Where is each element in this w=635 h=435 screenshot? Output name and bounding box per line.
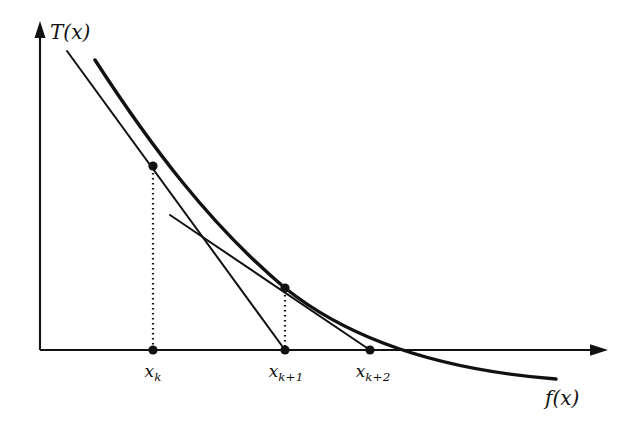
y-axis-label: T(x) [50, 22, 90, 42]
figure-canvas: T(x) f(x) xk xk+1 xk+2 [0, 0, 635, 435]
tick-label-x-k-base: x [145, 361, 155, 381]
function-curve [95, 60, 556, 379]
tick-label-x-k-1-base: x [269, 361, 279, 381]
tick-label-x-k-2-base: x [356, 361, 366, 381]
x-axis-label-paren-close: ) [572, 386, 580, 410]
x-axis-label-var: x [560, 386, 571, 410]
figure-graphics [0, 0, 635, 435]
tick-label-x-k-1-sub: k+1 [278, 370, 303, 384]
x-axis-arrow-icon [590, 344, 608, 356]
tick-label-x-k: xk [145, 363, 162, 383]
y-axis-label-base: T [50, 20, 63, 44]
y-axis-label-paren-open: ( [63, 20, 71, 44]
y-axis-arrow-icon [35, 21, 46, 38]
tangent-line-at-x-k [67, 51, 285, 350]
point-axis-x-k-1 [280, 345, 289, 354]
tick-label-x-k-sub: k [154, 370, 161, 384]
tick-label-x-k-2-sub: k+2 [365, 370, 390, 384]
y-axis-label-var: x [71, 20, 82, 44]
point-axis-x-k [148, 345, 157, 354]
y-axis-label-paren-close: ) [82, 20, 90, 44]
point-curve-x-k [148, 161, 157, 170]
point-curve-x-k-1 [280, 283, 289, 292]
tick-label-x-k-2: xk+2 [356, 363, 391, 383]
x-axis-label: f(x) [545, 388, 579, 408]
point-axis-x-k-2 [365, 345, 374, 354]
tick-label-x-k-1: xk+1 [269, 363, 304, 383]
